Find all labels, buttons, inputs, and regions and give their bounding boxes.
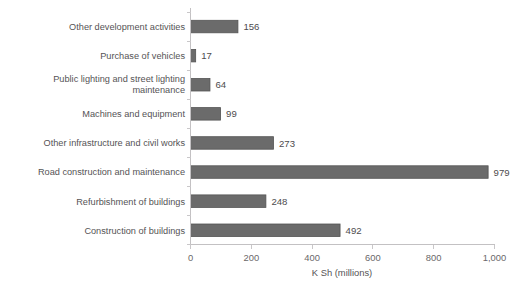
category-label-6: Refurbishment of buildings	[76, 197, 185, 207]
value-label-6: 248	[271, 196, 287, 207]
value-label-7: 492	[346, 225, 362, 236]
category-label-5: Road construction and maintenance	[38, 167, 185, 177]
bar-4[interactable]	[191, 137, 274, 150]
x-axis-title: K Sh (millions)	[312, 267, 372, 278]
bar-1[interactable]	[191, 49, 196, 62]
value-label-3: 99	[226, 108, 237, 119]
value-label-2: 64	[215, 79, 226, 90]
value-label-4: 273	[279, 138, 295, 149]
category-label-7: Construction of buildings	[84, 226, 185, 236]
x-tick-label-0: 0	[188, 252, 193, 263]
value-label-1: 17	[201, 50, 212, 61]
x-tick-label-4: 800	[426, 252, 442, 263]
bars-group	[191, 20, 489, 236]
category-label-3: Machines and equipment	[82, 109, 185, 119]
bar-6[interactable]	[191, 195, 266, 208]
bar-5[interactable]	[191, 166, 489, 179]
x-tick-label-1: 200	[243, 252, 259, 263]
bar-3[interactable]	[191, 108, 221, 121]
value-label-5: 979	[494, 167, 510, 178]
bar-chart: Other development activitiesPurchase of …	[0, 0, 520, 293]
category-labels-group: Other development activitiesPurchase of …	[38, 22, 186, 236]
bar-7[interactable]	[191, 224, 341, 237]
category-label-0: Other development activities	[69, 22, 185, 32]
x-tick-label-5: 1,000	[483, 252, 506, 263]
x-tick-label-2: 400	[304, 252, 320, 263]
value-label-0: 156	[243, 21, 259, 32]
category-label-2: Public lighting and street lightingmaint…	[53, 74, 185, 95]
category-label-4: Other infrastructure and civil works	[44, 138, 186, 148]
x-tick-label-3: 600	[365, 252, 381, 263]
bar-0[interactable]	[191, 20, 238, 33]
category-label-1: Purchase of vehicles	[100, 51, 185, 61]
bar-2[interactable]	[191, 79, 210, 92]
